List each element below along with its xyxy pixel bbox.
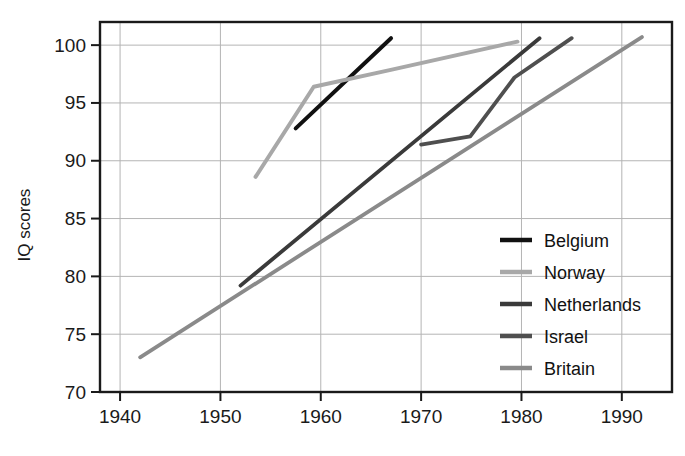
y-tick-label-90: 90	[65, 150, 86, 171]
x-tick-label-1950: 1950	[199, 406, 241, 427]
y-tick-label-100: 100	[54, 35, 86, 56]
legend-label-netherlands: Netherlands	[544, 295, 641, 315]
x-tick-label-1940: 1940	[99, 406, 141, 427]
y-tick-label-85: 85	[65, 208, 86, 229]
series-line-belgium	[296, 38, 391, 128]
x-tick-label-1980: 1980	[500, 406, 542, 427]
x-tick-label-1970: 1970	[400, 406, 442, 427]
x-tick-label-1960: 1960	[300, 406, 342, 427]
legend-label-norway: Norway	[544, 263, 605, 283]
y-tick-label-80: 80	[65, 266, 86, 287]
y-tick-label-70: 70	[65, 382, 86, 403]
legend-label-israel: Israel	[544, 327, 588, 347]
legend-label-britain: Britain	[544, 359, 595, 379]
x-tick-label-1990: 1990	[601, 406, 643, 427]
series-line-netherlands	[240, 38, 539, 285]
y-tick-label-75: 75	[65, 324, 86, 345]
chart-canvas: 707580859095100194019501960197019801990I…	[0, 0, 685, 456]
series-line-norway	[256, 42, 518, 177]
y-tick-label-95: 95	[65, 92, 86, 113]
legend-label-belgium: Belgium	[544, 231, 609, 251]
y-axis-title: IQ scores	[15, 189, 34, 262]
iq-scores-line-chart: 707580859095100194019501960197019801990I…	[0, 0, 685, 456]
